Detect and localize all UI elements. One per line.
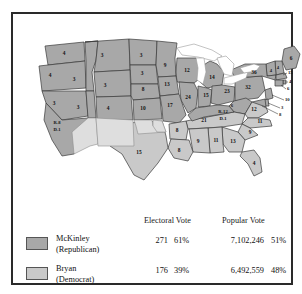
state-LA [168, 139, 193, 161]
label-NE: 8 [142, 86, 145, 92]
label-NV: 3 [53, 100, 56, 106]
state-FL [240, 150, 262, 176]
label-NY: 36 [251, 69, 257, 75]
label-TX: 15 [136, 149, 142, 155]
label-DE: 3 [281, 105, 284, 110]
popular-pct-bryan: 48% [271, 266, 286, 275]
label-IL: 24 [185, 94, 191, 100]
party-label-bryan: (Democrat) [56, 275, 94, 286]
label-IA: 13 [164, 81, 170, 87]
us-map-svg: 4 4 3 3 3 3 9 12 14 3 3 3 8 13 24 15 23 [26, 28, 302, 218]
figure-frame: 4 4 3 3 3 3 9 12 14 3 3 3 8 13 24 15 23 [11, 12, 293, 285]
electoral-votes-bryan: 176 [146, 266, 168, 275]
state-NE [131, 84, 160, 100]
label-SC: 9 [249, 129, 252, 135]
label-ME: 6 [290, 55, 293, 61]
label-OH: 23 [224, 88, 230, 94]
label-VA: 12 [251, 106, 257, 112]
label-MN: 9 [164, 62, 167, 68]
label-MO: 17 [167, 102, 173, 108]
electoral-pct-mckinley: 61% [174, 236, 189, 245]
legend-header-row: Electoral Vote Popular Vote [26, 214, 302, 230]
label-KS: 10 [140, 105, 146, 111]
label-AL: 11 [213, 137, 218, 143]
label-ID: 3 [73, 76, 76, 82]
candidate-name-bryan: Bryan (Democrat) [56, 264, 94, 285]
state-MN [156, 41, 177, 77]
label-CA-republican: R-8 [53, 120, 61, 125]
label-OR: 4 [49, 72, 52, 78]
popular-votes-mckinley: 7,102,246 [212, 236, 264, 245]
state-AR [169, 121, 188, 140]
label-IN: 15 [203, 92, 209, 98]
legend-row-bryan: Bryan (Democrat) 176 39% 6,492,559 48% [26, 266, 302, 292]
swatch-mckinley [26, 237, 48, 250]
label-MD: 8 [279, 112, 282, 117]
state-NJ [265, 88, 273, 100]
popular-pct-mckinley: 51% [271, 236, 286, 245]
legend: Electoral Vote Popular Vote McKinley (Re… [26, 214, 302, 294]
header-electoral-vote: Electoral Vote [144, 216, 191, 225]
swatch-bryan [26, 267, 48, 280]
popular-votes-bryan: 6,492,559 [212, 266, 264, 275]
leader-line-CT [281, 85, 286, 89]
label-CA-democrat: D-1 [53, 127, 61, 132]
label-CO: 4 [107, 105, 110, 111]
label-LA: 8 [178, 147, 181, 153]
label-WA: 4 [63, 50, 66, 56]
party-label-mckinley: (Republican) [56, 245, 99, 256]
label-FL: 4 [253, 160, 256, 166]
candidate-name-mckinley: McKinley (Republican) [56, 234, 99, 255]
label-AR: 8 [176, 127, 179, 133]
state-OR [39, 61, 86, 91]
state-CO [96, 96, 133, 120]
label-PA: 32 [245, 84, 251, 90]
state-WY [94, 70, 131, 97]
label-WY: 3 [104, 82, 107, 88]
us-map: 4 4 3 3 3 3 9 12 14 3 3 3 8 13 24 15 23 [26, 28, 302, 218]
candidate-label-mckinley: McKinley [56, 234, 99, 245]
label-KY-republican: R-12 [218, 109, 228, 114]
electoral-pct-bryan: 39% [174, 266, 189, 275]
label-KY-democrat: D-1 [219, 116, 227, 121]
state-SD [130, 65, 158, 84]
leader-line-NJ [272, 95, 284, 100]
electoral-votes-mckinley: 271 [146, 236, 168, 245]
label-UT: 3 [77, 104, 80, 110]
label-NJ: 10 [285, 97, 290, 102]
state-KS [133, 98, 162, 120]
label-MT: 3 [101, 52, 104, 58]
label-MS: 9 [197, 138, 200, 144]
label-SD: 3 [141, 70, 144, 76]
label-GA: 13 [230, 138, 236, 144]
candidate-label-bryan: Bryan [56, 264, 94, 275]
state-ND [129, 39, 157, 65]
state-UT [86, 91, 96, 118]
leader-line-DE [268, 103, 280, 108]
label-CT: 6 [287, 86, 290, 91]
label-RI: 4 [289, 79, 292, 84]
state-CT [275, 80, 283, 86]
label-MI: 14 [209, 74, 215, 80]
election-map-figure: 4 4 3 3 3 3 9 12 14 3 3 3 8 13 24 15 23 [0, 0, 302, 294]
label-MA: 15 [288, 70, 293, 75]
label-TN: 21 [201, 117, 207, 123]
legend-row-mckinley: McKinley (Republican) 271 61% 7,102,246 … [26, 236, 302, 262]
state-OH [211, 85, 235, 105]
label-ND: 3 [140, 52, 143, 58]
label-NC: 11 [257, 118, 262, 124]
territory-new-mexico [96, 118, 134, 146]
label-WI: 12 [184, 67, 190, 73]
header-popular-vote: Popular Vote [222, 216, 265, 225]
